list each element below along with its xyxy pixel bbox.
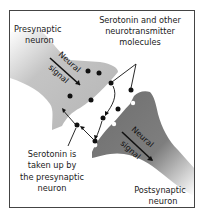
serotonin-molecule	[68, 94, 73, 99]
reuptake-arrowhead	[80, 126, 85, 130]
serotonin-molecule	[101, 116, 106, 121]
serotonin-molecule	[97, 71, 102, 76]
reuptake-label-1: Serotonin is	[28, 149, 76, 159]
serotonin-molecule	[75, 123, 80, 128]
reuptake-arrow	[82, 128, 93, 139]
reuptake-label-3: the presynaptic	[20, 172, 84, 182]
reuptake-pointer	[68, 128, 76, 146]
serotonin-molecule	[129, 88, 134, 93]
receptor-notch	[112, 122, 116, 126]
serotonin-molecule	[86, 69, 91, 74]
diffusion-arrowhead	[105, 111, 109, 116]
postsynaptic-neuron-shape	[92, 91, 194, 196]
receptor-notch	[131, 101, 135, 105]
serotonin-molecule	[89, 98, 94, 103]
reuptake-label-2: taken up by	[28, 160, 77, 170]
postsynaptic-label-2: neuron	[149, 196, 178, 206]
presynaptic-label-1: Presynaptic	[14, 24, 62, 34]
presynaptic-label-2: neuron	[25, 35, 54, 45]
synapse-diagram: Neural signal Neural signal Presynaptic …	[0, 0, 204, 219]
molecules-label-3: molecules	[119, 37, 161, 47]
reuptake-label-4: neuron	[38, 183, 67, 193]
diffusion-arrow	[96, 121, 102, 138]
molecules-label-2: neurotransmitter	[105, 26, 175, 36]
postsynaptic-label-1: Postsynaptic	[134, 185, 186, 195]
serotonin-molecule	[116, 107, 121, 112]
molecules-label-1: Serotonin and other	[99, 15, 181, 25]
diffusion-arrow	[106, 86, 115, 114]
